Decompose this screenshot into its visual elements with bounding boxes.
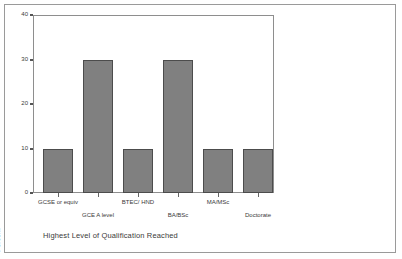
bar-ba-bsc — [163, 60, 193, 194]
chart-caption: Highest Level of Qualification Reached — [43, 231, 178, 240]
bar-chart: 40 30 20 10 0 Percent — [5, 5, 397, 254]
x-label-btec-hnd: BTEC/ HND — [122, 198, 154, 206]
bar-btec-hnd — [123, 149, 153, 194]
y-tick-label: 40 — [21, 10, 28, 18]
y-tick-label: 30 — [21, 55, 28, 63]
bar-gcse-or-equiv — [43, 149, 73, 194]
x-label-ma-msc: MA/MSc — [207, 198, 230, 206]
bar-doctorate — [243, 149, 273, 194]
bars-layer — [33, 15, 274, 193]
x-tick-1 — [58, 193, 59, 197]
x-tick-2 — [98, 193, 99, 197]
x-tick-6 — [258, 193, 259, 197]
y-axis-title: Percent — [0, 228, 1, 252]
y-tick-label: 0 — [25, 188, 28, 196]
x-tick-4 — [178, 193, 179, 197]
y-tick-label: 20 — [21, 99, 28, 107]
x-tick-3 — [138, 193, 139, 197]
x-label-gce-a-level: GCE A level — [82, 211, 114, 219]
bar-ma-msc — [203, 149, 233, 194]
bar-gce-a-level — [83, 60, 113, 194]
figure-frame: 40 30 20 10 0 Percent — [4, 4, 396, 253]
x-tick-5 — [218, 193, 219, 197]
x-label-ba-bsc: BA/BSc — [168, 211, 189, 219]
y-tick-label: 10 — [21, 144, 28, 152]
x-label-gcse-or-equiv: GCSE or equiv — [38, 198, 78, 206]
x-label-doctorate: Doctorate — [245, 211, 271, 219]
